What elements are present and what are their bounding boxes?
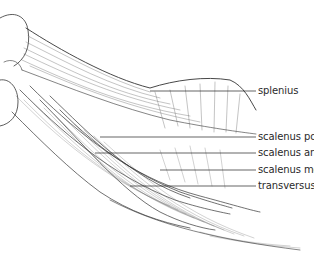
label-transversus-costarum: transversus costarum bbox=[258, 180, 314, 192]
label-scalenus-anterior: scalenus anterior bbox=[258, 147, 314, 159]
label-scalenus-medius: scalenus medius bbox=[258, 164, 314, 176]
label-splenius: splenius bbox=[258, 85, 298, 97]
label-scalenus-posterior: scalenus posterior bbox=[258, 131, 314, 143]
anatomical-illustration bbox=[0, 0, 314, 259]
